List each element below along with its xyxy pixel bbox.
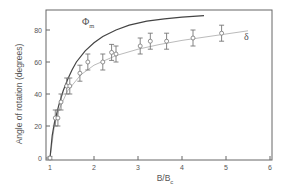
x-tick-label: 5 [224, 164, 228, 171]
y-tick-label: 20 [34, 123, 42, 130]
delta-data-point [55, 110, 60, 126]
delta-fit-line [50, 31, 248, 158]
delta-data-point [85, 54, 90, 70]
phi-m-curve [50, 16, 204, 158]
x-tick-label: 6 [268, 164, 272, 171]
phi-m-label: Φm [82, 16, 94, 29]
x-tick-label: 2 [92, 164, 96, 171]
y-tick-label: 40 [34, 91, 42, 98]
delta-data-point [114, 46, 119, 62]
x-tick-label: 4 [180, 164, 184, 171]
x-axis-label: B/Bc [157, 173, 174, 185]
delta-data-point [164, 33, 169, 49]
y-tick-label: 0 [38, 155, 42, 162]
delta-data-point [67, 78, 72, 94]
x-tick-label: 3 [136, 164, 140, 171]
chart-svg: 123456020406080 Φmδ Angle of rotation (d… [0, 0, 287, 191]
x-tick-label: 1 [48, 164, 52, 171]
delta-data-point [138, 38, 143, 54]
delta-data-point [100, 54, 105, 70]
delta-label: δ [244, 31, 249, 42]
y-axis-label: Angle of rotation (degrees) [14, 44, 24, 145]
y-tick-label: 80 [34, 27, 42, 34]
plot-area: Φmδ [48, 16, 250, 160]
chart: 123456020406080 Φmδ Angle of rotation (d… [0, 0, 287, 191]
delta-data-point [59, 94, 64, 110]
delta-data-point [191, 30, 196, 46]
delta-data-point [219, 25, 224, 41]
delta-data-point [77, 65, 82, 81]
delta-data-point [48, 156, 53, 160]
y-tick-label: 60 [34, 59, 42, 66]
